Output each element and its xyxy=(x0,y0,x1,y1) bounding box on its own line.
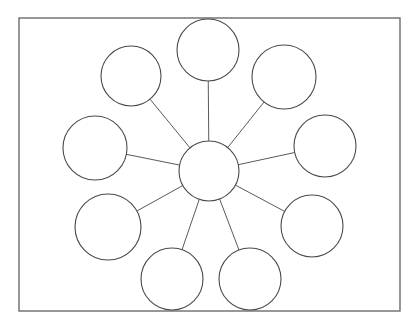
spoke-line-node-left xyxy=(126,154,179,165)
spoke-line-node-bottom-left-inner xyxy=(182,199,199,249)
diagram-canvas xyxy=(0,0,417,325)
outer-node-circle-node-bottom-left[interactable] xyxy=(75,194,141,260)
outer-node-circle-node-right[interactable] xyxy=(294,115,356,177)
spoke-line-node-right xyxy=(238,153,294,165)
spoke-line-node-bottom-left xyxy=(137,186,183,211)
outer-node-circle-node-left[interactable] xyxy=(63,116,127,180)
spoke-line-node-bottom-right-inner xyxy=(220,199,239,250)
center-node-circle[interactable] xyxy=(179,141,239,201)
outer-node-circle-node-bottom-right[interactable] xyxy=(281,195,343,257)
outer-node-circle-node-bottom-right-inner[interactable] xyxy=(219,248,281,310)
outer-node-circle-node-bottom-left-inner[interactable] xyxy=(141,248,203,310)
spoke-line-node-top-right xyxy=(228,102,264,148)
concept-map-svg xyxy=(0,0,417,325)
center-node-circle-group xyxy=(179,141,239,201)
outer-node-circle-node-top-right[interactable] xyxy=(252,45,316,109)
spoke-line-node-top-left xyxy=(150,99,190,148)
outer-node-circle-node-top-left[interactable] xyxy=(101,46,161,106)
outer-node-circle-node-top[interactable] xyxy=(177,19,239,81)
spoke-line-node-bottom-right xyxy=(235,185,284,211)
